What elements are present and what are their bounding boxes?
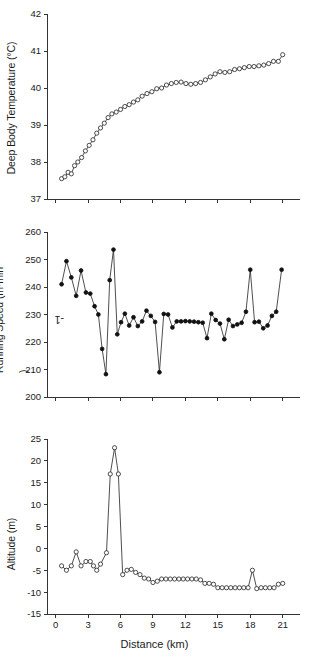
svg-text:210: 210 [25, 364, 41, 375]
svg-text:18: 18 [245, 619, 256, 630]
svg-text:3: 3 [85, 619, 90, 630]
svg-text:20: 20 [30, 455, 41, 466]
svg-text:200: 200 [25, 391, 41, 402]
svg-text:39: 39 [30, 119, 41, 130]
svg-text:25: 25 [30, 433, 41, 444]
svg-text:5: 5 [36, 521, 41, 532]
plot-area-running-speed: 200210220230240250260 [0, 215, 309, 425]
svg-text:9: 9 [150, 619, 155, 630]
svg-text:15: 15 [213, 619, 224, 630]
x-axis-label-distance: Distance (km) [0, 638, 309, 650]
plot-area-temperature: 373839404142 [0, 0, 309, 215]
plot-area-altitude: -15-10-50510152025036912151821 [0, 425, 309, 662]
svg-text:-15: -15 [27, 608, 41, 619]
svg-text:0: 0 [53, 619, 58, 630]
figure-container: Deep Body Temperature (°C) 373839404142 … [0, 0, 309, 662]
svg-text:38: 38 [30, 156, 41, 167]
svg-text:6: 6 [118, 619, 123, 630]
svg-text:240: 240 [25, 281, 41, 292]
svg-text:-10: -10 [27, 587, 41, 598]
panel-running-speed: Running Speed (m·min-1) 2002102202302402… [0, 215, 309, 425]
svg-text:41: 41 [30, 45, 41, 56]
svg-text:15: 15 [30, 477, 41, 488]
panel-altitude: Altitude (m) -15-10-50510152025036912151… [0, 425, 309, 662]
svg-text:220: 220 [25, 336, 41, 347]
svg-text:-5: -5 [33, 565, 41, 576]
svg-text:10: 10 [30, 499, 41, 510]
svg-text:21: 21 [277, 619, 288, 630]
svg-text:40: 40 [30, 82, 41, 93]
svg-text:37: 37 [30, 193, 41, 204]
svg-text:260: 260 [25, 226, 41, 237]
svg-text:12: 12 [180, 619, 191, 630]
svg-text:42: 42 [30, 8, 41, 19]
svg-text:250: 250 [25, 254, 41, 265]
svg-text:0: 0 [36, 543, 41, 554]
svg-text:230: 230 [25, 309, 41, 320]
panel-deep-body-temperature: Deep Body Temperature (°C) 373839404142 [0, 0, 309, 215]
